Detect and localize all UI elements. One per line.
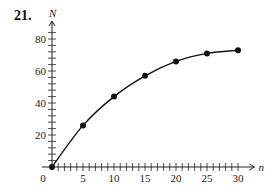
y-tick-label: 80: [35, 33, 47, 45]
data-point: [235, 47, 241, 53]
data-point: [80, 122, 86, 128]
data-point: [49, 164, 55, 170]
data-point: [142, 73, 148, 79]
data-point: [111, 94, 117, 100]
x-tick-label: 10: [109, 172, 121, 184]
x-axis-label: n: [258, 161, 264, 173]
x-tick-label: 0: [40, 172, 46, 184]
x-tick-label: 20: [171, 172, 183, 184]
data-point: [204, 50, 210, 56]
x-tick-label: 25: [202, 172, 214, 184]
data-point: [173, 58, 179, 64]
x-tick-label: 30: [233, 172, 245, 184]
x-tick-label: 15: [140, 172, 152, 184]
y-axis-label: N: [48, 7, 57, 19]
chart: 05101520253020406080nN: [0, 0, 276, 190]
y-tick-label: 40: [35, 97, 47, 109]
data-curve: [52, 50, 238, 167]
y-tick-label: 60: [35, 65, 47, 77]
y-tick-label: 20: [35, 129, 47, 141]
x-tick-label: 5: [80, 172, 86, 184]
